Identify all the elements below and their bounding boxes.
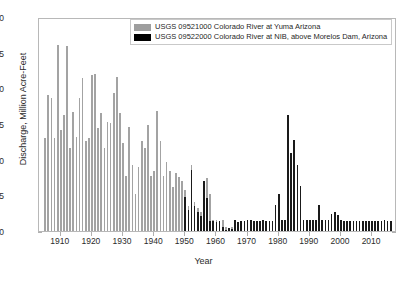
bar-yuma (107, 122, 109, 231)
bar-yuma (166, 162, 168, 231)
x-tick-mark (247, 232, 248, 236)
bar-nib (212, 221, 214, 231)
bar-nib (256, 221, 258, 231)
bar-yuma (125, 176, 127, 231)
bar-nib (278, 194, 280, 231)
bar-nib (346, 221, 348, 231)
bar-nib (384, 220, 386, 231)
bar-yuma (94, 74, 96, 231)
bar-nib (240, 221, 242, 231)
bars-layer (39, 19, 395, 231)
x-axis-title: Year (0, 256, 407, 266)
y-tick-label: 5 (0, 192, 4, 201)
bar-yuma (122, 143, 124, 231)
bar-nib (237, 222, 239, 231)
y-tick-label: 25 (0, 50, 4, 59)
bar-nib (374, 221, 376, 231)
bar-yuma (135, 194, 137, 231)
bar-nib (222, 227, 224, 231)
bar-yuma (51, 98, 53, 231)
bar-yuma (104, 148, 106, 231)
x-tick-mark (278, 232, 279, 236)
bar-nib (356, 221, 358, 231)
bar-yuma (138, 167, 140, 231)
legend-label-yuma: USGS 09521000 Colorado River at Yuma Ari… (155, 22, 320, 32)
bar-yuma (69, 148, 71, 231)
bar-nib (349, 221, 351, 231)
bar-nib (297, 165, 299, 231)
bar-nib (269, 221, 271, 231)
x-tick-mark (309, 232, 310, 236)
bar-nib (312, 220, 314, 231)
x-tick-mark (215, 232, 216, 236)
bar-nib (381, 221, 383, 231)
black-swatch-icon (134, 34, 151, 41)
y-tick-label: 20 (0, 85, 4, 94)
bar-yuma (47, 95, 49, 231)
bar-nib (287, 115, 289, 231)
bar-yuma (63, 115, 65, 231)
bar-nib (209, 221, 211, 231)
bar-nib (284, 220, 286, 231)
bar-nib (321, 220, 323, 231)
bar-yuma (172, 187, 174, 231)
y-tick-label: 10 (0, 157, 4, 166)
bar-nib (365, 221, 367, 231)
plot-area (38, 18, 396, 232)
bar-nib (219, 221, 221, 231)
bar-nib (309, 220, 311, 231)
bar-nib (340, 220, 342, 231)
y-tick-label: 0 (0, 228, 4, 237)
x-tick-mark (122, 232, 123, 236)
bar-yuma (110, 123, 112, 231)
bar-yuma (79, 98, 81, 231)
x-tick-mark (91, 232, 92, 236)
bar-yuma (97, 128, 99, 231)
bar-nib (259, 221, 261, 231)
y-axis-title: Discharge, Million Acre-Feet (18, 24, 28, 194)
bar-nib (353, 221, 355, 231)
bar-yuma (85, 141, 87, 231)
bar-yuma (160, 141, 162, 231)
bar-nib (371, 221, 373, 231)
bar-yuma (91, 75, 93, 231)
bar-nib (184, 197, 186, 231)
bar-nib (228, 228, 230, 231)
x-tick-mark (371, 232, 372, 236)
y-tick-mark-right (392, 232, 396, 233)
gray-swatch-icon (134, 24, 151, 31)
bar-nib (191, 170, 193, 231)
bar-yuma (57, 45, 59, 231)
bar-yuma (156, 111, 158, 231)
bar-yuma (82, 78, 84, 231)
y-tick-label: 30 (0, 14, 4, 23)
bar-nib (328, 220, 330, 231)
bar-yuma (178, 177, 180, 231)
bar-yuma (144, 148, 146, 231)
bar-nib (194, 206, 196, 231)
bar-nib (337, 215, 339, 231)
y-tick-mark (38, 232, 42, 233)
bar-nib (300, 186, 302, 231)
bar-nib (362, 221, 364, 231)
bar-nib (216, 222, 218, 231)
bar-yuma (141, 141, 143, 231)
bar-nib (197, 212, 199, 231)
x-tick-mark (340, 232, 341, 236)
bar-nib (318, 205, 320, 231)
bar-yuma (128, 127, 130, 231)
bar-nib (315, 220, 317, 231)
bar-yuma (147, 125, 149, 231)
bar-yuma (66, 46, 68, 231)
bar-yuma (132, 165, 134, 231)
bar-yuma (76, 137, 78, 231)
bar-yuma (60, 130, 62, 231)
bar-nib (334, 212, 336, 231)
bar-nib (281, 220, 283, 231)
bar-nib (306, 220, 308, 231)
bar-nib (265, 221, 267, 231)
bar-nib (368, 221, 370, 231)
x-tick-mark (184, 232, 185, 236)
bar-nib (225, 230, 227, 231)
bar-yuma (54, 138, 56, 231)
